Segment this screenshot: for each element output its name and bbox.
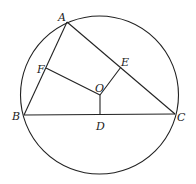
label-o: O (95, 82, 104, 95)
label-b: B (11, 110, 20, 123)
label-f: F (36, 63, 45, 76)
label-c: C (177, 111, 186, 124)
geometry-diagram: A B C D E F O (0, 0, 196, 184)
label-e: E (120, 56, 129, 69)
side-ab (24, 22, 67, 115)
label-d: D (95, 120, 105, 133)
label-a: A (57, 11, 66, 24)
segment-of (46, 68, 100, 95)
